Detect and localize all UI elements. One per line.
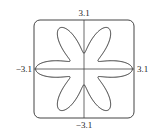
tick-label-bottom: −3.1 — [76, 120, 92, 130]
tick-label-right: 3.1 — [137, 64, 148, 74]
tick-label-left: −3.1 — [16, 64, 32, 74]
tick-label-top: 3.1 — [78, 8, 89, 18]
polar-chart: 3.1 −3.1 −3.1 3.1 — [0, 0, 153, 138]
